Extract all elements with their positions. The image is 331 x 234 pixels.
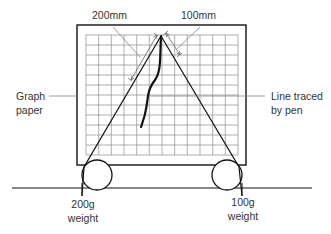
label-100g: 100g xyxy=(231,196,255,208)
left-pulley xyxy=(82,160,112,190)
label-200g-weight: weight xyxy=(67,212,98,224)
label-200mm: 200mm xyxy=(92,9,127,21)
label-pen-line-1: Line traced xyxy=(271,90,323,102)
label-pen-line-2: by pen xyxy=(271,104,303,116)
label-graph-paper-2: paper xyxy=(16,104,43,116)
pen-plotter-diagram: 200mm 100mm Graph paper Line traced by p… xyxy=(0,0,331,234)
label-100g-weight: weight xyxy=(227,210,258,222)
label-100mm: 100mm xyxy=(181,9,216,21)
label-graph-paper-1: Graph xyxy=(16,90,45,102)
graph-paper-grid xyxy=(86,35,238,155)
label-200g: 200g xyxy=(71,198,95,210)
